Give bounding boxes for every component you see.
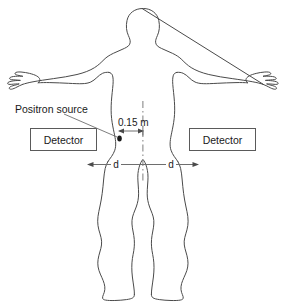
positron-source-label: Positron source: [15, 103, 88, 115]
detector-right-label: Detector: [203, 134, 243, 146]
right-arm-upper: [143, 9, 264, 85]
body-left-upper: [23, 9, 143, 85]
offset-dimension: 0.15 m: [118, 117, 149, 136]
right-arm-lower: [177, 72, 248, 83]
offset-distance-label: 0.15 m: [118, 117, 149, 128]
source-dot-icon: [117, 136, 122, 142]
detector-right[interactable]: Detector: [190, 129, 256, 151]
detector-left-label: Detector: [44, 134, 84, 146]
right-hand: [246, 72, 278, 89]
right-torso-side: [170, 72, 178, 161]
diagram-canvas: Detector Detector Positron source 0.15 m: [0, 0, 285, 308]
left-leg-outer: [98, 162, 135, 301]
d-label-right: d: [168, 159, 174, 170]
left-arm-lower: [38, 72, 109, 83]
d-label-left: d: [113, 159, 119, 170]
left-leg-inner: [132, 164, 140, 294]
d-arrow-left-icon: [87, 162, 94, 167]
arrow-left-icon: [118, 129, 124, 134]
detector-left[interactable]: Detector: [31, 129, 97, 151]
left-torso-side: [108, 72, 116, 161]
right-leg-outer: [151, 162, 188, 301]
right-leg-inner: [146, 164, 154, 294]
positron-diagram-figure: Detector Detector Positron source 0.15 m: [0, 0, 285, 308]
d-arrow-right-icon: [193, 162, 200, 167]
left-hand: [8, 72, 40, 89]
